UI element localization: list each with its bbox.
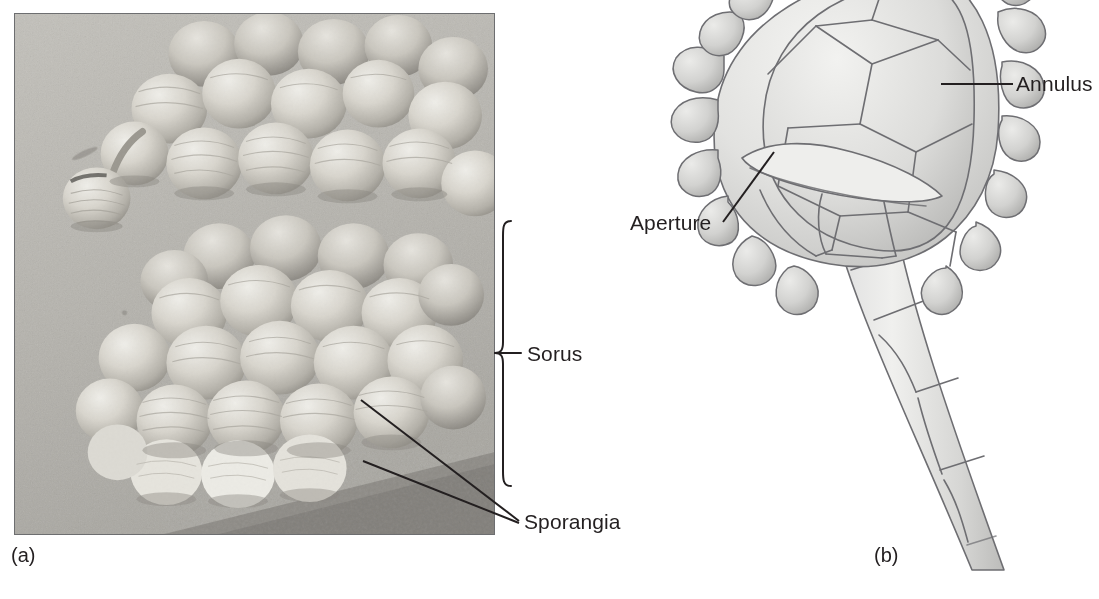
label-aperture: Aperture [630,212,711,233]
panel-letter-b: (b) [874,545,898,565]
sem-photo-frame [14,13,495,535]
label-sporangia: Sporangia [524,511,621,532]
label-annulus: Annulus [1016,73,1093,94]
sem-photo-image [15,14,494,534]
panel-a-micrograph [14,13,495,535]
panel-letter-a: (a) [11,545,35,565]
sorus-brace-leader [495,221,521,486]
label-sorus: Sorus [527,343,582,364]
figure-root: Sorus Sporangia Annulus Aperture (a) (b) [0,0,1099,599]
